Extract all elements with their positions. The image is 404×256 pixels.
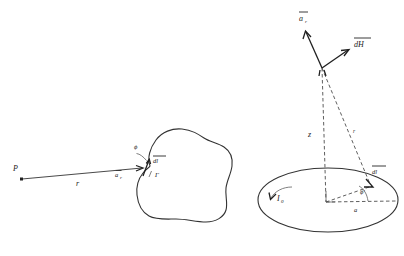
vector-dh-line xyxy=(322,50,348,68)
label-i0-subscript: 0 xyxy=(281,199,284,204)
z-axis-dashed-line xyxy=(322,68,326,202)
label-axis-z: z xyxy=(307,130,312,139)
label-angle-phi: ϕ xyxy=(134,143,138,150)
svg-text:I: I xyxy=(276,194,280,203)
label-element-dl: dl xyxy=(153,156,166,164)
radius-to-dl-dashed-line xyxy=(326,186,372,202)
vector-ar-line xyxy=(306,32,322,68)
label-loop-unit-vector-ar: a r xyxy=(299,12,308,24)
contour-gamma-path xyxy=(137,129,232,222)
svg-text:dH: dH xyxy=(354,40,365,49)
svg-text:a: a xyxy=(115,171,118,178)
angle-phi-arc xyxy=(137,154,147,161)
figure-root: P r a r ϕ dl Γ xyxy=(0,0,404,256)
label-unit-vector-ar: a r xyxy=(115,171,122,181)
distance-r-dashed-line xyxy=(322,68,370,184)
svg-text:a: a xyxy=(299,14,303,23)
svg-text:dl: dl xyxy=(153,157,158,164)
label-radius-a: a xyxy=(354,206,357,213)
label-loop-ar-subscript: r xyxy=(305,19,307,24)
right-panel-group: a r dH z r dl ϕ′ a I 0 xyxy=(258,12,398,232)
svg-text:dl: dl xyxy=(372,168,377,175)
label-contour-gamma: Γ xyxy=(154,171,159,178)
label-field-dh: dH xyxy=(354,38,371,49)
label-distance-r: r xyxy=(76,179,80,188)
label-ar-subscript: r xyxy=(120,175,122,180)
label-loop-element-dl: dl xyxy=(372,166,386,175)
physics-diagram: P r a r ϕ dl Γ xyxy=(0,0,404,256)
gamma-tick-mark xyxy=(149,171,152,177)
label-point-p: P xyxy=(12,164,18,173)
point-p-dot xyxy=(20,178,23,181)
radius-a-dashed-line xyxy=(326,201,396,202)
label-current-i0: I 0 xyxy=(276,194,284,204)
label-angle-phi-prime: ϕ′ xyxy=(360,188,365,195)
center-corner-mark xyxy=(326,191,335,202)
left-panel-group: P r a r ϕ dl Γ xyxy=(12,129,232,222)
ray-r-line xyxy=(22,168,142,179)
label-loop-distance-r: r xyxy=(353,128,356,134)
